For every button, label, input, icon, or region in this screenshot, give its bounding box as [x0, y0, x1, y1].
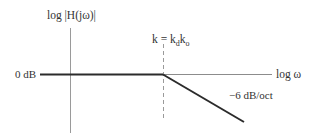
slope-label: −6 dB/oct: [229, 89, 273, 101]
x-axis-label: log ω: [276, 68, 302, 81]
y-axis-label: log |H(jω)|: [47, 9, 96, 22]
corner-frequency-label: k = kdko: [152, 33, 190, 48]
zero-db-label: 0 dB: [15, 68, 36, 80]
bode-diagram: log |H(jω)| 0 dB log ω −6 dB/oct k = kdk…: [0, 0, 312, 137]
corner-sub-o: o: [186, 39, 190, 48]
corner-k: k = k: [152, 33, 176, 45]
